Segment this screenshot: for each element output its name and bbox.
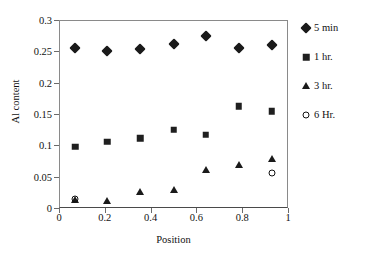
data-point: [137, 135, 144, 142]
legend-label: 1 hr.: [314, 51, 333, 63]
y-axis-tick-label: 0.2: [39, 77, 52, 88]
legend-item: 6 Hr.: [300, 109, 368, 138]
legend-item: 5 min: [300, 22, 368, 51]
data-point: [269, 108, 276, 115]
legend-marker-glyph: [303, 112, 310, 119]
x-axis-tick-label: 0: [56, 212, 61, 223]
x-axis-title: Position: [59, 234, 288, 245]
x-axis-tick-label: 0.2: [98, 212, 111, 223]
legend-label: 5 min: [314, 22, 338, 34]
y-axis-tick-label: 0.25: [34, 46, 52, 57]
data-point: [170, 126, 177, 133]
x-axis-tick-label: 0.8: [236, 212, 249, 223]
legend-label: 3 hr.: [314, 80, 333, 92]
data-point: [101, 46, 112, 57]
y-axis-tick-label: 0: [47, 203, 52, 214]
legend-label: 6 Hr.: [314, 109, 335, 121]
x-axis-tick-label: 1: [285, 212, 290, 223]
data-point: [236, 103, 243, 110]
legend-marker-glyph: [302, 82, 310, 89]
data-point: [202, 131, 209, 138]
y-axis-tick-label: 0.15: [34, 109, 52, 120]
y-axis-tick-label: 0.3: [39, 15, 52, 26]
legend-marker-icon: [300, 51, 312, 63]
legend-marker-icon: [300, 109, 312, 121]
chart-legend: 5 min1 hr.3 hr.6 Hr.: [300, 22, 368, 138]
legend-item: 1 hr.: [300, 51, 368, 80]
data-point: [235, 161, 243, 168]
data-point: [168, 39, 179, 50]
data-point: [104, 138, 111, 145]
data-point: [170, 186, 178, 193]
legend-marker-glyph: [303, 54, 310, 61]
data-point: [72, 143, 79, 150]
scatter-chart: 00.050.10.150.20.250.3 00.20.40.60.81 Po…: [0, 0, 369, 259]
legend-marker-icon: [300, 22, 312, 34]
legend-marker-glyph: [300, 22, 311, 33]
x-axis-tick-label: 0.6: [190, 212, 203, 223]
legend-item: 3 hr.: [300, 80, 368, 109]
legend-marker-icon: [300, 80, 312, 92]
data-points-layer: [59, 20, 288, 208]
data-point: [136, 188, 144, 195]
data-point: [268, 169, 275, 176]
data-point: [72, 196, 79, 203]
x-axis-tick-labels: 00.20.40.60.81: [59, 212, 288, 228]
data-point: [69, 42, 80, 53]
data-point: [200, 31, 211, 42]
data-point: [233, 42, 244, 53]
y-axis-tick-label: 0.1: [39, 140, 52, 151]
data-point: [103, 197, 111, 204]
y-axis-tick-labels: 00.050.10.150.20.250.3: [0, 20, 52, 208]
x-axis-tick-label: 0.4: [144, 212, 157, 223]
data-point: [266, 39, 277, 50]
data-point: [202, 166, 210, 173]
data-point: [268, 155, 276, 162]
y-axis-tick-label: 0.05: [34, 171, 52, 182]
data-point: [135, 44, 146, 55]
y-axis-title: Al content: [10, 54, 21, 150]
